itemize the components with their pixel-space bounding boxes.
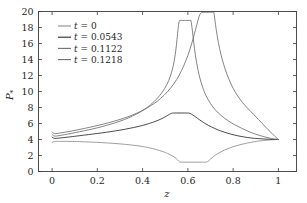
x-tick-label: 0 [49,175,55,186]
y-axis-title-group: P* [4,89,17,101]
y-axis-title: P* [4,89,17,101]
legend-label-1: t = 0.0543 [74,32,123,42]
y-tick-label: 14 [21,54,33,65]
x-axis-tick-labels: 00.20.40.60.81 [49,175,281,186]
chart-plot: 00.20.40.60.81 02468101214161820 z P* t … [0,0,307,203]
x-tick-label: 0.2 [90,175,105,186]
legend: t = 0t = 0.0543t = 0.1122t = 0.1218 [58,21,123,65]
y-tick-label: 10 [21,86,33,97]
legend-label-0: t = 0 [74,21,97,31]
y-tick-label: 12 [21,70,33,81]
y-tick-label: 2 [27,150,33,161]
y-tick-label: 18 [21,22,33,33]
y-tick-label: 4 [27,134,33,145]
y-tick-label: 0 [27,166,33,177]
x-axis-title: z [163,188,170,199]
y-axis-title-subscript: * [9,89,17,93]
y-axis-tick-labels: 02468101214161820 [21,6,33,177]
legend-label-2: t = 0.1122 [74,44,122,54]
series-line-3 [52,12,278,139]
x-tick-label: 0.6 [180,175,195,186]
series-line-1 [52,113,278,140]
figure-container: 00.20.40.60.81 02468101214161820 z P* t … [0,0,307,203]
y-tick-label: 6 [27,118,33,129]
y-tick-label: 8 [27,102,33,113]
legend-label-3: t = 0.1218 [74,55,123,65]
y-tick-label: 20 [21,6,33,17]
y-tick-label: 16 [21,38,33,49]
x-tick-label: 1 [275,175,281,186]
x-tick-label: 0.8 [226,175,241,186]
series-line-0 [52,140,278,163]
x-tick-label: 0.4 [135,175,150,186]
